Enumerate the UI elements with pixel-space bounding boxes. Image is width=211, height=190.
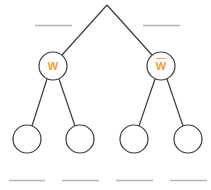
- edge-left-leaf2: [59, 79, 75, 126]
- leaf-node-2: [66, 125, 94, 153]
- node-w-label: W: [48, 60, 59, 72]
- edge-left-leaf1: [32, 79, 47, 126]
- leaf-node-3: [120, 125, 148, 153]
- edge-root-right: [107, 5, 152, 55]
- edge-root-left: [62, 5, 107, 55]
- node-w-bar-label: W: [156, 60, 167, 72]
- edge-right-leaf3: [139, 79, 155, 126]
- leaf-node-4: [174, 125, 202, 153]
- leaf-node-1: [13, 125, 41, 153]
- tree-diagram: W W: [0, 0, 211, 190]
- edge-right-leaf4: [167, 79, 183, 126]
